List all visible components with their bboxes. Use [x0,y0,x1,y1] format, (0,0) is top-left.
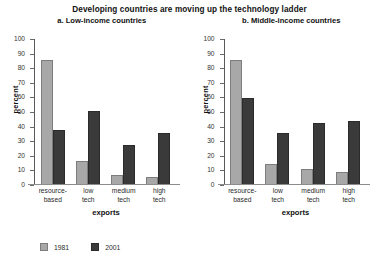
bar-group [106,39,141,184]
y-tick: 10 [220,170,224,171]
bar-2001-resource-based[interactable] [53,130,65,184]
bar-1981-medium-tech[interactable] [111,175,123,184]
bar-group [141,39,176,184]
chart-a-plot-area: percent 0102030405060708090100 resource-… [0,27,190,219]
y-tick: 70 [220,83,224,84]
legend-swatch-1981 [40,243,48,251]
y-tick-label: 60 [18,92,25,101]
chart-panels-row: a. Low-income countries percent 01020304… [0,15,379,225]
y-tick: 20 [220,156,224,157]
y-tick-label: 60 [207,92,214,101]
legend-item-2001[interactable]: 2001 [91,243,120,251]
bar-2001-medium-tech[interactable] [313,123,325,184]
category-label: lowtech [260,187,296,204]
chart-a-bars [35,39,176,184]
category-label: hightech [142,187,178,204]
chart-panel-b: b. Middle-income countries percent 01020… [190,15,379,225]
category-label: mediumtech [296,187,332,204]
y-tick-label: 40 [207,122,214,131]
legend-label: 2001 [105,244,120,251]
legend-label: 1981 [54,244,69,251]
bar-group [35,39,70,184]
bar-1981-low-tech[interactable] [76,161,88,184]
chart-b-axes: 0102030405060708090100 [224,39,366,185]
bar-2001-resource-based[interactable] [242,98,254,184]
y-tick-label: 80 [18,63,25,72]
y-tick-label: 30 [18,136,25,145]
y-tick: 60 [30,97,34,98]
chart-a-category-labels: resource-basedlowtechmediumtechhightech [35,187,177,204]
y-tick-label: 10 [18,165,25,174]
category-label: resource-based [225,187,261,204]
y-tick-label: 10 [207,165,214,174]
chart-b-bars [225,39,366,184]
bar-2001-low-tech[interactable] [277,133,289,184]
chart-a-axes: 0102030405060708090100 [34,39,176,185]
chart-b-title: b. Middle-income countries [190,15,379,27]
y-tick-label: 70 [207,78,214,87]
bar-group [225,39,260,184]
figure-title: Developing countries are moving up the t… [0,0,379,15]
y-tick: 50 [220,112,224,113]
y-tick-label: 80 [207,63,214,72]
category-label: resource-based [35,187,71,204]
y-tick-label: 50 [18,107,25,116]
y-tick: 20 [30,156,34,157]
y-tick: 100 [220,39,224,40]
chart-a-x-axis-line [28,184,180,185]
chart-a-title: a. Low-income countries [0,15,190,27]
bar-1981-resource-based[interactable] [230,60,242,184]
chart-a-x-axis-label: exports [35,208,177,217]
chart-legend: 19812001 [40,243,120,251]
y-tick-label: 100 [14,34,25,43]
chart-b-category-labels: resource-basedlowtechmediumtechhightech [225,187,367,204]
bar-1981-medium-tech[interactable] [301,169,313,184]
y-tick-label: 30 [207,136,214,145]
y-tick-label: 20 [18,151,25,160]
y-tick-label: 90 [18,49,25,58]
legend-swatch-2001 [91,243,99,251]
chart-b-plot-area: percent 0102030405060708090100 resource-… [190,27,379,219]
bar-2001-high-tech[interactable] [348,121,360,184]
y-tick: 90 [30,54,34,55]
chart-panel-a: a. Low-income countries percent 01020304… [0,15,190,225]
y-tick-label: 40 [18,122,25,131]
y-tick: 30 [30,141,34,142]
legend-item-1981[interactable]: 1981 [40,243,69,251]
category-label: mediumtech [106,187,142,204]
bar-group [330,39,365,184]
y-tick: 30 [220,141,224,142]
bar-1981-low-tech[interactable] [265,164,277,184]
y-tick: 90 [220,54,224,55]
y-tick: 100 [30,39,34,40]
y-tick-label: 70 [18,78,25,87]
chart-b-x-axis-label: exports [225,208,367,217]
y-tick: 70 [30,83,34,84]
bar-group [70,39,105,184]
bar-group [295,39,330,184]
y-tick: 0 [220,185,224,186]
bar-1981-high-tech[interactable] [336,172,348,184]
y-tick-label: 100 [203,34,214,43]
y-tick: 40 [30,127,34,128]
y-tick: 80 [30,68,34,69]
category-label: lowtech [71,187,107,204]
y-tick-label: 0 [211,180,215,189]
bar-2001-high-tech[interactable] [158,133,170,184]
bar-1981-high-tech[interactable] [146,177,158,184]
y-tick: 40 [220,127,224,128]
chart-b-x-axis-line [218,184,370,185]
bar-2001-medium-tech[interactable] [123,145,135,184]
bar-2001-low-tech[interactable] [88,111,100,184]
y-tick: 0 [30,185,34,186]
y-tick: 60 [220,97,224,98]
bar-1981-resource-based[interactable] [41,60,53,184]
y-tick: 50 [30,112,34,113]
y-tick-label: 50 [207,107,214,116]
y-tick-label: 0 [21,180,25,189]
bar-group [260,39,295,184]
y-tick-label: 90 [207,49,214,58]
y-tick: 80 [220,68,224,69]
category-label: hightech [331,187,367,204]
y-tick-label: 20 [207,151,214,160]
